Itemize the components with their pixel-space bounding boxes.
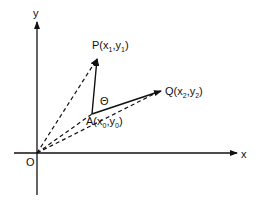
point-a-label: A(x0,y0) xyxy=(86,115,123,129)
dashed-line-o-to-a xyxy=(37,114,92,153)
x-axis-label: x xyxy=(241,148,247,160)
angle-theta-label: Θ xyxy=(100,95,109,107)
point-p-label: P(x1,y1) xyxy=(92,39,129,53)
vector-diagram: y x O Θ P(x1,y1) A(x0,y0) Q(x2,y2) xyxy=(0,0,260,200)
point-q-label: Q(x2,y2) xyxy=(165,85,203,99)
origin-label: O xyxy=(26,156,35,168)
y-axis-label: y xyxy=(33,7,39,19)
dashed-line-o-to-p xyxy=(37,59,97,153)
vector-a-to-p xyxy=(92,59,97,114)
